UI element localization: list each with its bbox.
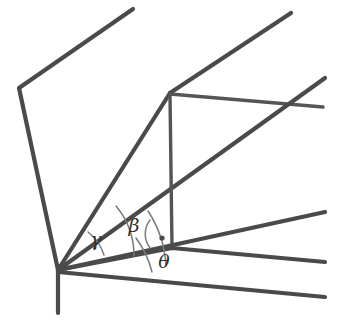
gamma-ray [58,93,170,270]
diagram-canvas: γ β θ [0,0,346,326]
theta-ray [58,248,325,270]
angle-diagram-svg: γ β θ [0,0,346,326]
right-angle-dot [159,235,164,240]
right-angle-arc [145,220,150,248]
base-ray [58,272,325,297]
beta-label: β [128,214,140,236]
upper-edge-ray [170,13,291,93]
gamma-label: γ [90,228,102,250]
vertical-drop-line [170,95,172,248]
theta-label: θ [158,250,170,272]
